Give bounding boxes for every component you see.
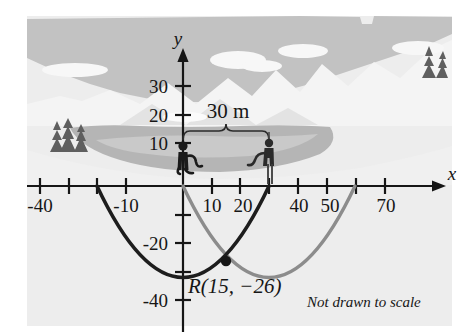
cloud-icon <box>278 44 328 58</box>
y-tick-label--40: -40 <box>143 290 168 311</box>
cloud-icon <box>392 41 444 55</box>
point-label-R: R(15, −26) <box>187 274 282 298</box>
y-tick-label-10: 10 <box>149 133 168 154</box>
math-figure: x y -40 -10 10 20 40 50 70 30 20 10 -20 … <box>0 0 474 335</box>
x-tick-label--10: -10 <box>113 195 138 216</box>
x-tick-label-50: 50 <box>321 195 340 216</box>
x-tick-label--40: -40 <box>27 195 52 216</box>
figure-stage: x y -40 -10 10 20 40 50 70 30 20 10 -20 … <box>0 0 474 335</box>
y-axis-label: y <box>172 28 183 49</box>
x-tick-label-40: 40 <box>290 195 309 216</box>
x-axis-label: x <box>447 163 457 184</box>
brace-label-30m: 30 m <box>207 99 250 123</box>
x-tick-label-20: 20 <box>234 195 253 216</box>
y-tick-label-30: 30 <box>149 76 168 97</box>
y-tick-label-20: 20 <box>149 105 168 126</box>
cloud-icon <box>163 112 207 122</box>
point-marker-R <box>221 256 231 266</box>
not-to-scale-note: Not drawn to scale <box>306 294 421 310</box>
x-tick-label-70: 70 <box>377 195 396 216</box>
cloud-icon <box>42 63 108 77</box>
x-tick-label-10: 10 <box>203 195 222 216</box>
figure-svg: x y -40 -10 10 20 40 50 70 30 20 10 -20 … <box>0 0 474 335</box>
y-tick-label--20: -20 <box>143 233 168 254</box>
